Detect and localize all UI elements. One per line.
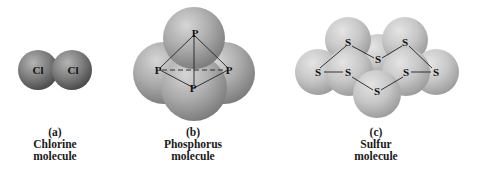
atom-label: S bbox=[403, 66, 409, 78]
atom-label: Cl bbox=[33, 64, 44, 76]
caption-name: Phosphorus bbox=[133, 138, 253, 150]
atom-label: S bbox=[375, 53, 381, 65]
caption-name: Sulfur bbox=[316, 138, 436, 150]
caption-phosphorus: (b) Phosphorus molecule bbox=[133, 126, 253, 162]
caption-letter: (b) bbox=[133, 126, 253, 138]
sulfur-molecule: S S S S S S S S bbox=[295, 17, 459, 118]
atom-label: S bbox=[433, 66, 439, 78]
caption-chlorine: (a) Chlorine molecule bbox=[0, 126, 115, 162]
caption-suffix: molecule bbox=[316, 150, 436, 162]
atom-label: S bbox=[345, 66, 351, 78]
caption-sulfur: (c) Sulfur molecule bbox=[316, 126, 436, 162]
caption-letter: (a) bbox=[0, 126, 115, 138]
atom-label: S bbox=[315, 66, 321, 78]
atom-label: P bbox=[192, 27, 199, 39]
chlorine-molecule: Cl Cl bbox=[18, 50, 92, 90]
caption-name: Chlorine bbox=[0, 138, 115, 150]
caption-suffix: molecule bbox=[0, 150, 115, 162]
atom-label: P bbox=[226, 64, 233, 76]
caption-suffix: molecule bbox=[133, 150, 253, 162]
atom-label: S bbox=[374, 85, 380, 97]
atom-label: S bbox=[402, 36, 408, 48]
caption-letter: (c) bbox=[316, 126, 436, 138]
atom-label: S bbox=[345, 36, 351, 48]
atom-label: P bbox=[190, 82, 197, 94]
atom-label: P bbox=[155, 64, 162, 76]
atom-label: Cl bbox=[68, 64, 79, 76]
phosphorus-molecule: P P P P bbox=[133, 7, 255, 121]
